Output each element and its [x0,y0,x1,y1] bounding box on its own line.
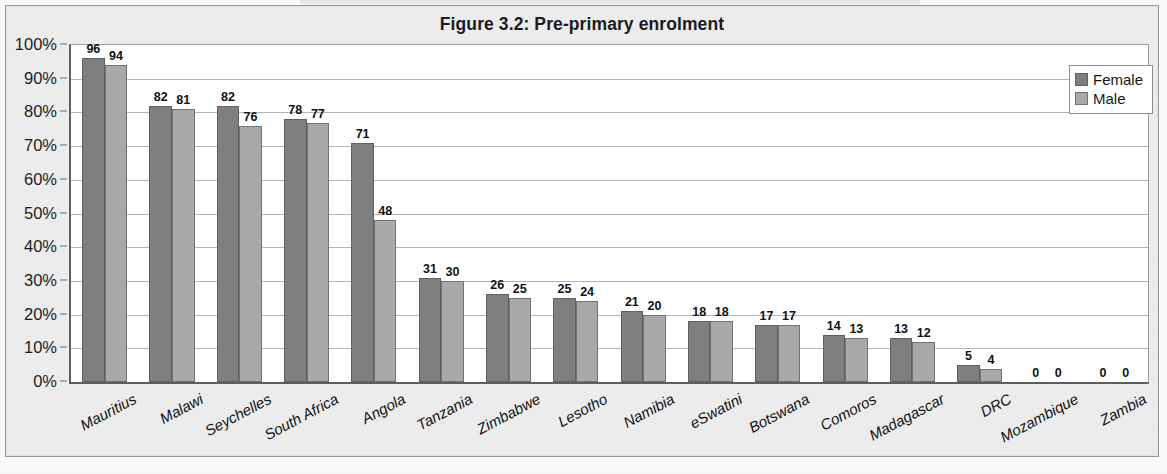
plot-area: 9694828182767877714831302625252421201818… [69,44,1149,384]
x-axis-tick-label: Lesotho [555,390,610,430]
bar-value-label: 76 [244,110,258,124]
bar-group: 1312 [879,45,946,382]
bar-value-label: 0 [1032,366,1039,380]
y-axis-tick-label: 70% [24,136,57,155]
y-axis-tick-mark [60,44,67,45]
bar-male [643,315,666,382]
y-axis-tick-mark [60,246,67,247]
bar-group: 2625 [475,45,542,382]
bar-female [284,119,307,382]
x-axis: MauritiusMalawiSeychellesSouth AfricaAng… [6,384,1158,460]
legend-label: Female [1093,71,1143,88]
legend-item-male: Male [1075,89,1147,108]
bar-value-label: 0 [1055,366,1062,380]
bar-value-label: 17 [760,309,774,323]
y-axis-tick-mark [60,77,67,78]
bar-female [419,278,442,382]
y-axis-tick-mark [60,279,67,280]
y-axis-tick-mark [60,313,67,314]
bar-male [374,220,397,382]
x-axis-tick-label: Zimbabwe [474,390,543,437]
y-axis-tick-label: 50% [24,203,57,222]
bar-value-label: 30 [446,265,460,279]
bar-value-label: 96 [86,42,100,56]
x-axis-tick-label: Madagascar [866,390,947,444]
y-axis: 100%90%80%70%60%50%40%30%20%10%0% [6,44,67,384]
legend-label: Male [1093,90,1126,107]
bar-value-label: 71 [356,127,370,141]
bar-value-label: 77 [311,107,325,121]
y-axis-tick-label: 100% [15,35,57,54]
bar-male [441,281,464,382]
y-axis-tick-label: 30% [24,270,57,289]
bar-male [912,342,935,382]
figure-page: Figure 3.2: Pre-primary enrolment 100%90… [0,0,1167,474]
bar-female [890,338,913,382]
x-axis-tick-label: Tanzania [414,390,475,433]
bar-group: 8276 [206,45,273,382]
bar-value-label: 0 [1100,366,1107,380]
bar-value-label: 94 [109,49,123,63]
y-axis-tick-mark [60,178,67,179]
chart-legend: FemaleMale [1069,65,1153,114]
legend-swatch-female [1075,73,1088,86]
figure-frame: Figure 3.2: Pre-primary enrolment 100%90… [5,5,1159,457]
bar-group: 7148 [340,45,407,382]
bar-group: 9694 [71,45,138,382]
bar-value-label: 0 [1122,366,1129,380]
bar-male [239,126,262,382]
bar-value-label: 81 [176,93,190,107]
bar-group: 1413 [811,45,878,382]
bar-male [509,298,532,382]
bar-value-label: 13 [894,322,908,336]
x-axis-tick-label: Angola [359,390,408,427]
bar-male [105,65,128,382]
y-axis-tick-label: 90% [24,68,57,87]
bar-group: 2120 [610,45,677,382]
bar-male [710,321,733,382]
bar-female [553,298,576,382]
bar-group: 7877 [273,45,340,382]
y-axis-tick-mark [60,347,67,348]
bar-value-label: 14 [827,319,841,333]
bar-female [486,294,509,382]
bar-value-label: 48 [378,204,392,218]
legend-item-female: Female [1075,70,1147,89]
bar-male [172,109,195,382]
bar-value-label: 26 [490,278,504,292]
y-axis-tick-label: 60% [24,169,57,188]
y-axis-tick-mark [60,381,67,382]
y-axis-tick-mark [60,111,67,112]
bar-male [980,369,1003,382]
bar-female [621,311,644,382]
y-axis-tick-label: 80% [24,102,57,121]
y-axis-tick-mark [60,145,67,146]
y-axis-tick-label: 20% [24,304,57,323]
bar-group: 8281 [138,45,205,382]
bar-female [755,325,778,382]
chart-title: Figure 3.2: Pre-primary enrolment [6,14,1158,35]
x-axis-tick-label: Mauritius [77,390,139,434]
bar-value-label: 82 [154,90,168,104]
x-axis-tick-label: South Africa [261,390,341,443]
bar-female [351,143,374,382]
x-axis-tick-label: eSwatini [687,390,745,432]
bar-male [845,338,868,382]
bar-male [778,325,801,382]
x-axis-tick-label: Zambia [1096,390,1148,428]
bar-value-label: 24 [580,285,594,299]
bar-female [823,335,846,382]
y-axis-tick-mark [60,212,67,213]
bar-value-label: 25 [513,282,527,296]
x-axis-tick-label: DRC [977,390,1014,420]
bar-female [82,58,105,382]
bar-value-label: 31 [423,262,437,276]
bar-female [688,321,711,382]
legend-swatch-male [1075,92,1088,105]
x-axis-tick-label: Namibia [621,390,678,431]
bar-male [307,123,330,382]
bar-value-label: 20 [647,299,661,313]
bar-female [149,106,172,382]
x-axis-tick-label: Botswana [746,390,812,436]
bar-female [957,365,980,382]
